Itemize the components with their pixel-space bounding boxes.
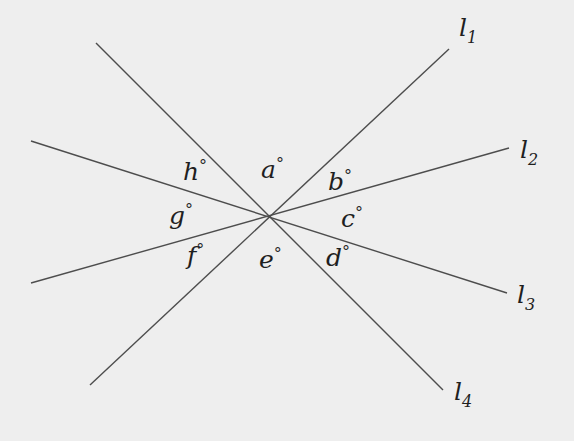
degree-symbol: ° xyxy=(342,242,350,261)
line-label-l1-subscript: 1 xyxy=(467,28,477,47)
degree-symbol: ° xyxy=(344,166,352,185)
line-label-l2-subscript: 2 xyxy=(527,150,538,169)
line-label-l4-subscript: 4 xyxy=(461,392,472,411)
degree-symbol: ° xyxy=(355,203,363,222)
degree-symbol: ° xyxy=(274,244,282,263)
background xyxy=(0,0,574,441)
degree-symbol: ° xyxy=(185,200,193,219)
intersecting-lines-diagram: l1 l2 l3 l4 a° b° c° d° e° f° g° h° xyxy=(0,0,574,441)
degree-symbol: ° xyxy=(276,154,284,173)
line-label-l3-subscript: 3 xyxy=(525,295,535,314)
degree-symbol: ° xyxy=(196,240,204,259)
degree-symbol: ° xyxy=(199,156,207,175)
